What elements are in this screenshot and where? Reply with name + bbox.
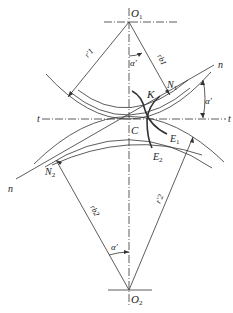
label-o2: O2 [131, 293, 143, 307]
label-e2: E2 [152, 151, 163, 164]
gear2-base-arc [52, 145, 202, 165]
line-of-action-n [16, 65, 214, 179]
label-alpha-right: α′ [205, 96, 213, 106]
label-r-prime-1: r′1 [83, 47, 96, 60]
r-prime-1-line [68, 22, 129, 97]
label-r-prime-2: r′2 [154, 193, 166, 205]
label-t-left: t [37, 113, 40, 124]
label-alpha-top: α′ [130, 58, 138, 68]
gear1-addendum-arc [46, 72, 211, 119]
label-o1: O1 [131, 7, 143, 21]
gear2-pitch-arc [45, 140, 212, 168]
label-c: C [131, 124, 139, 136]
gear-meshing-diagram: O1 O2 C K N1 N2 E1 E2 t t n n α′ α′ α′ r… [0, 0, 233, 313]
diagram-canvas: O1 O2 C K N1 N2 E1 E2 t t n n α′ α′ α′ r… [0, 0, 233, 313]
label-n2: N2 [44, 166, 56, 179]
label-k: K [146, 88, 155, 100]
rb2-line [56, 160, 129, 290]
arrow-r-prime-2 [190, 137, 194, 143]
label-alpha-bottom: α′ [111, 242, 119, 252]
label-rb2: rb2 [88, 204, 101, 218]
arrow-alpha-bottom [124, 250, 129, 254]
label-rb1: rb1 [155, 53, 168, 67]
label-n-upper: n [218, 59, 223, 70]
label-e1: E1 [169, 133, 180, 146]
label-n-lower: n [8, 183, 13, 194]
arrow-alpha-right-bottom [200, 113, 205, 118]
label-t-right: t [228, 113, 231, 124]
